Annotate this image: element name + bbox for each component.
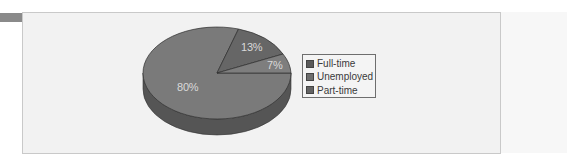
slice-label-part-time: 13%	[241, 41, 262, 53]
pie-chart	[0, 0, 567, 161]
legend-item-full-time: Full-time	[306, 57, 375, 70]
legend-item-part-time: Part-time	[306, 84, 375, 97]
slice-label-full-time: 80%	[177, 81, 198, 93]
legend-label: Part-time	[317, 85, 358, 96]
legend-label: Unemployed	[317, 71, 373, 82]
chart-legend: Full-time Unemployed Part-time	[302, 54, 376, 98]
legend-swatch	[306, 86, 314, 94]
legend-swatch	[306, 73, 314, 81]
legend-swatch	[306, 60, 314, 68]
legend-item-unemployed: Unemployed	[306, 70, 375, 83]
slice-label-unemployed: 7%	[267, 59, 283, 71]
legend-label: Full-time	[317, 58, 355, 69]
